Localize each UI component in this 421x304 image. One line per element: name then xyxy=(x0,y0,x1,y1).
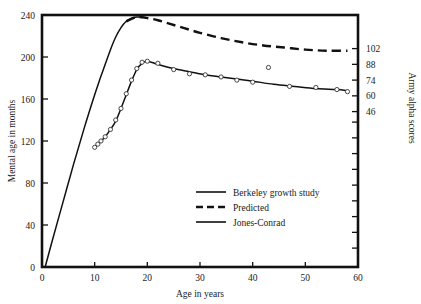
data-point-marker xyxy=(335,87,339,91)
x-axis-ticks: 0102030405060 xyxy=(40,262,363,283)
data-point-marker xyxy=(219,75,223,79)
data-point-marker xyxy=(266,65,270,69)
y-tick-label: 200 xyxy=(21,53,36,63)
x-tick-label: 20 xyxy=(143,273,153,283)
scatter-points xyxy=(93,59,350,149)
y-axis-title: Mental age in months xyxy=(7,99,17,182)
data-point-marker xyxy=(140,60,144,64)
x-tick-label: 10 xyxy=(90,273,100,283)
y-tick-label: 240 xyxy=(21,11,36,21)
y2-axis-ticks: 46607488102 xyxy=(352,44,381,248)
plot-border xyxy=(42,15,358,267)
y2-tick-label: 102 xyxy=(366,44,381,54)
data-point-marker xyxy=(145,59,149,63)
x-tick-label: 50 xyxy=(301,273,311,283)
data-point-marker xyxy=(103,135,107,139)
legend-label: Jones-Conrad xyxy=(233,218,285,228)
y-tick-label: 80 xyxy=(26,179,36,189)
chart-figure: 0102030405060 04080120160200240 46607488… xyxy=(0,0,421,304)
data-point-marker xyxy=(135,66,139,70)
plot-frame xyxy=(42,15,358,267)
data-point-marker xyxy=(129,78,133,82)
y-axis-ticks: 04080120160200240 xyxy=(21,11,48,273)
y2-tick-label: 74 xyxy=(366,76,376,86)
data-point-marker xyxy=(203,73,207,77)
data-point-marker xyxy=(114,118,118,122)
legend-label: Berkeley growth study xyxy=(233,188,320,198)
y2-tick-label: 46 xyxy=(366,107,376,117)
series-line-predicted xyxy=(126,17,347,51)
data-point-marker xyxy=(251,80,255,84)
series-line-jones-conrad xyxy=(45,17,147,267)
data-point-marker xyxy=(108,127,112,131)
data-point-marker xyxy=(99,139,103,143)
legend-label: Predicted xyxy=(233,203,269,213)
y2-tick-label: 60 xyxy=(366,91,376,101)
data-point-marker xyxy=(172,68,176,72)
x-axis-title: Age in years xyxy=(176,289,224,299)
data-point-marker xyxy=(119,106,123,110)
data-series xyxy=(45,17,347,267)
data-point-marker xyxy=(287,84,291,88)
data-point-marker xyxy=(345,90,349,94)
series-line-berkeley-growth-study xyxy=(95,61,348,147)
y2-tick-label: 88 xyxy=(366,60,376,70)
chart-canvas: 0102030405060 04080120160200240 46607488… xyxy=(0,0,421,304)
chart-legend: Berkeley growth studyPredictedJones-Conr… xyxy=(196,188,320,228)
y2-axis-title: Army alpha scores xyxy=(407,72,417,144)
data-point-marker xyxy=(314,85,318,89)
y-tick-label: 160 xyxy=(21,95,36,105)
data-point-marker xyxy=(187,72,191,76)
data-point-marker xyxy=(156,61,160,65)
x-tick-label: 30 xyxy=(195,273,205,283)
x-tick-label: 0 xyxy=(40,273,45,283)
data-point-marker xyxy=(124,92,128,96)
x-tick-label: 60 xyxy=(353,273,363,283)
x-tick-label: 40 xyxy=(248,273,258,283)
data-point-marker xyxy=(235,78,239,82)
y-tick-label: 0 xyxy=(30,263,35,273)
y-tick-label: 40 xyxy=(26,221,36,231)
y-tick-label: 120 xyxy=(21,137,36,147)
